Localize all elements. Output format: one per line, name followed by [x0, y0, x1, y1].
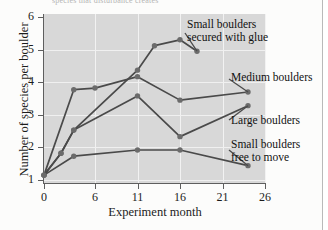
x-axis-tick-label: 16	[170, 190, 190, 205]
y-axis-tick	[38, 82, 43, 83]
x-axis-tick	[223, 184, 224, 189]
annotation-small-boulders-glue: Small boulders secured with glue	[187, 18, 268, 43]
y-axis-tick	[38, 17, 43, 18]
gridline-horizontal	[44, 50, 265, 51]
y-axis-tick-label: 5	[18, 42, 34, 57]
annotation-medium-boulders: Medium boulders	[231, 71, 312, 84]
gridline-vertical	[95, 14, 96, 183]
annotation-large-boulders: Large boulders	[231, 114, 300, 127]
cropped-figure-title: species that disturbance creates	[52, 0, 232, 5]
gridline-vertical	[180, 14, 181, 183]
y-axis-tick-label: 1	[18, 172, 34, 187]
annotation-line-2: free to move	[231, 151, 300, 164]
annotation-line-2: secured with glue	[187, 31, 268, 44]
x-axis-tick	[265, 184, 266, 189]
y-axis-tick	[38, 50, 43, 51]
y-axis-label: Number of species per boulder	[17, 10, 32, 190]
x-axis-tick-label: 0	[34, 190, 54, 205]
x-axis-tick-label: 11	[128, 190, 148, 205]
annotation-small-boulders-free: Small boulders free to move	[231, 138, 300, 163]
y-axis-tick-label: 3	[18, 107, 34, 122]
x-axis-tick	[95, 184, 96, 189]
x-axis-tick-label: 21	[213, 190, 233, 205]
page-margin	[323, 0, 328, 230]
annotation-line-1: Small boulders	[231, 138, 300, 151]
y-axis-line	[43, 14, 44, 184]
gridline-horizontal	[44, 180, 265, 181]
x-axis-tick	[44, 184, 45, 189]
y-axis-tick-label: 2	[18, 139, 34, 154]
x-axis-label: Experiment month	[60, 205, 250, 220]
x-axis-tick	[138, 184, 139, 189]
y-axis-tick	[38, 147, 43, 148]
y-axis-tick	[38, 115, 43, 116]
y-axis-tick-label: 4	[18, 74, 34, 89]
x-axis-tick-label: 26	[255, 190, 275, 205]
annotation-line-1: Medium boulders	[231, 71, 312, 84]
y-axis-tick-label: 6	[18, 9, 34, 24]
page-edge-rule	[322, 0, 323, 230]
annotation-line-1: Small boulders	[187, 18, 268, 31]
annotation-line-1: Large boulders	[231, 114, 300, 127]
y-axis-tick	[38, 180, 43, 181]
gridline-vertical	[138, 14, 139, 183]
x-axis-tick-label: 6	[85, 190, 105, 205]
x-axis-line	[43, 183, 266, 184]
x-axis-tick	[180, 184, 181, 189]
